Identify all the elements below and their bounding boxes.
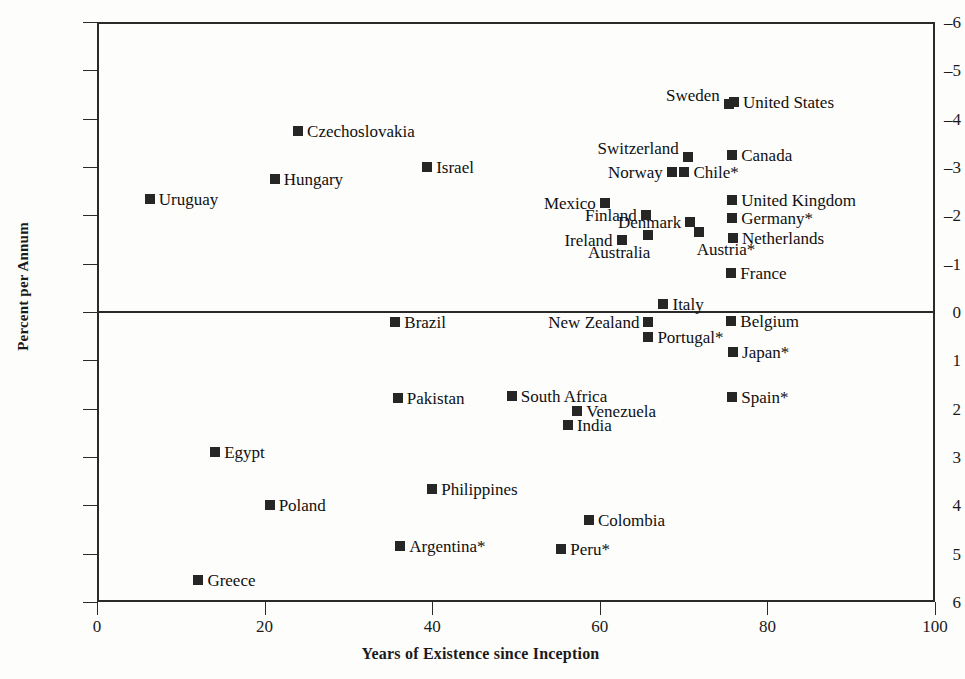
- y-tick-label: –1: [887, 256, 961, 273]
- data-point-marker: [556, 544, 566, 554]
- data-point-marker: [507, 391, 517, 401]
- data-point-marker: [694, 227, 704, 237]
- y-tick-label: –4: [887, 111, 961, 128]
- data-point-label: Switzerland: [598, 140, 679, 157]
- data-point-marker: [210, 447, 220, 457]
- y-tick-mark: [83, 409, 97, 410]
- data-point-marker: [724, 99, 734, 109]
- data-point-label: Israel: [436, 159, 474, 176]
- x-tick-label: 20: [235, 618, 295, 635]
- cropped-title-sliver: [0, 0, 961, 2]
- y-tick-mark: [83, 457, 97, 458]
- data-point-label: Philippines: [441, 481, 518, 498]
- data-point-marker: [390, 317, 400, 327]
- y-tick-label: 3: [887, 449, 961, 466]
- data-point-marker: [193, 575, 203, 585]
- data-point-marker: [584, 515, 594, 525]
- data-point-marker: [727, 150, 737, 160]
- data-point-marker: [728, 347, 738, 357]
- data-point-label: Denmark: [618, 214, 681, 231]
- data-point-marker: [270, 174, 280, 184]
- data-point-label: Pakistan: [407, 390, 465, 407]
- data-point-marker: [685, 217, 695, 227]
- y-tick-mark: [83, 264, 97, 265]
- x-tick-mark: [935, 602, 936, 615]
- x-tick-label: 0: [67, 618, 127, 635]
- data-point-label: United States: [743, 94, 834, 111]
- data-point-marker: [563, 420, 573, 430]
- data-point-marker: [679, 167, 689, 177]
- data-point-label: Canada: [741, 147, 792, 164]
- data-point-label: Belgium: [740, 313, 799, 330]
- x-tick-mark: [97, 602, 98, 615]
- data-point-label: Argentina*: [409, 538, 485, 555]
- y-tick-label: 4: [887, 497, 961, 514]
- data-point-marker: [726, 268, 736, 278]
- data-point-marker: [617, 235, 627, 245]
- data-point-label: Greece: [207, 572, 255, 589]
- data-point-label: Hungary: [284, 171, 343, 188]
- data-point-marker: [643, 230, 653, 240]
- data-point-label: Poland: [279, 497, 326, 514]
- x-tick-mark: [432, 602, 433, 615]
- data-point-label: Peru*: [570, 541, 610, 558]
- data-point-label: Egypt: [224, 444, 265, 461]
- data-point-marker: [265, 500, 275, 510]
- data-point-label: United Kingdom: [741, 192, 856, 209]
- x-tick-mark: [767, 602, 768, 615]
- y-tick-mark: [83, 22, 97, 23]
- data-point-marker: [293, 126, 303, 136]
- y-tick-mark: [83, 215, 97, 216]
- y-tick-label: 2: [887, 401, 961, 418]
- y-tick-label: –5: [887, 62, 961, 79]
- data-point-marker: [727, 195, 737, 205]
- y-tick-label: 5: [887, 546, 961, 563]
- y-axis-title: Percent per Annum: [15, 187, 32, 387]
- y-tick-label: 6: [887, 594, 961, 611]
- y-tick-mark: [83, 554, 97, 555]
- x-tick-mark: [265, 602, 266, 615]
- data-point-label: India: [577, 417, 612, 434]
- data-point-label: Italy: [672, 296, 703, 313]
- x-axis-title: Years of Existence since Inception: [0, 645, 961, 663]
- data-point-label: Norway: [608, 164, 663, 181]
- data-point-marker: [572, 406, 582, 416]
- y-tick-label: –2: [887, 207, 961, 224]
- y-tick-mark: [83, 602, 97, 603]
- data-point-label: Uruguay: [159, 191, 218, 208]
- data-point-marker: [643, 332, 653, 342]
- data-point-marker: [395, 541, 405, 551]
- y-tick-mark: [83, 70, 97, 71]
- data-point-label: Germany*: [741, 210, 813, 227]
- y-tick-label: 1: [887, 352, 961, 369]
- data-point-marker: [427, 484, 437, 494]
- x-tick-label: 40: [402, 618, 462, 635]
- data-point-label: New Zealand: [548, 314, 639, 331]
- data-point-marker: [727, 213, 737, 223]
- data-point-label: Spain*: [741, 389, 788, 406]
- x-tick-label: 80: [737, 618, 797, 635]
- data-point-marker: [726, 316, 736, 326]
- data-point-label: Sweden: [666, 87, 720, 104]
- data-point-marker: [393, 393, 403, 403]
- data-point-marker: [145, 194, 155, 204]
- y-tick-mark: [83, 312, 97, 313]
- y-tick-label: 0: [887, 304, 961, 321]
- data-point-label: Chile*: [693, 164, 738, 181]
- data-point-label: Netherlands: [742, 230, 824, 247]
- y-tick-label: –6: [887, 14, 961, 31]
- x-tick-label: 60: [570, 618, 630, 635]
- data-point-marker: [683, 152, 693, 162]
- data-point-label: Brazil: [404, 314, 446, 331]
- data-point-label: Czechoslovakia: [307, 123, 415, 140]
- zero-reference-line: [97, 311, 935, 313]
- y-tick-mark: [83, 167, 97, 168]
- y-tick-mark: [83, 360, 97, 361]
- data-point-label: Japan*: [742, 344, 789, 361]
- data-point-label: Colombia: [598, 512, 665, 529]
- y-tick-mark: [83, 119, 97, 120]
- data-point-marker: [728, 233, 738, 243]
- x-tick-mark: [600, 602, 601, 615]
- data-point-label: France: [740, 265, 786, 282]
